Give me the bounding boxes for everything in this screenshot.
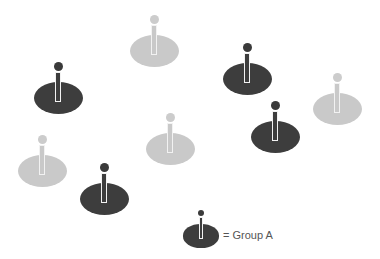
pin-head xyxy=(243,43,252,52)
pin-head xyxy=(271,101,280,110)
pin-head xyxy=(38,135,47,144)
pin-stem xyxy=(272,111,278,141)
pin-stem xyxy=(334,83,340,113)
pin-head xyxy=(198,210,204,216)
pin-head xyxy=(54,62,63,71)
pin-head xyxy=(150,15,159,24)
pin-stem xyxy=(244,53,250,83)
legend-label: = Group A xyxy=(223,229,273,241)
pin-stem xyxy=(55,72,61,102)
pin-head xyxy=(333,73,342,82)
pin-stem xyxy=(167,123,173,153)
pin-stem xyxy=(101,173,107,203)
pin-head xyxy=(166,113,175,122)
pin-stem xyxy=(199,217,203,239)
pin-stem xyxy=(39,145,45,175)
pin-stem xyxy=(151,25,157,55)
pin-diagram: = Group A xyxy=(0,0,380,259)
pin-head xyxy=(100,163,109,172)
